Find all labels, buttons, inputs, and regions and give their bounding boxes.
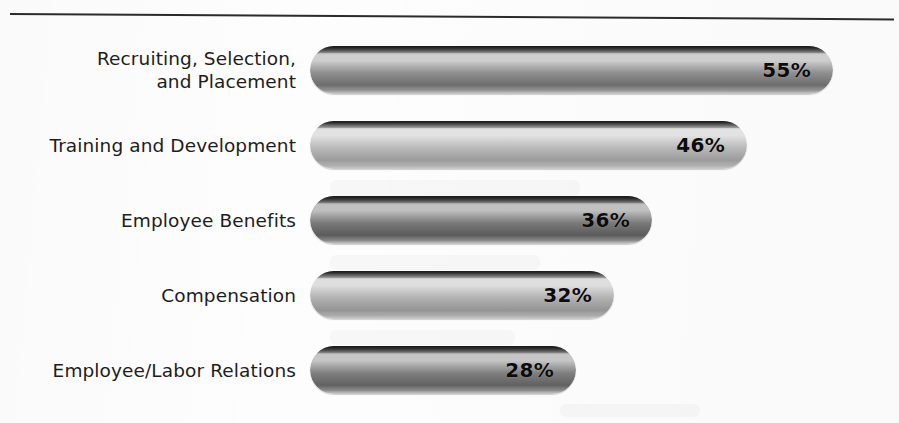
category-label: Employee/Labor Relations: [0, 359, 310, 382]
bar: 36%: [310, 196, 652, 244]
bar-value-label: 36%: [581, 196, 630, 244]
bar-row: Training and Development46%: [0, 117, 899, 173]
category-label: Compensation: [0, 284, 310, 307]
bar-track: 32%: [310, 267, 899, 323]
plot-area: Recruiting, Selection, and Placement55%T…: [0, 28, 899, 423]
bar-chart: Recruiting, Selection, and Placement55%T…: [0, 0, 899, 423]
bar-row: Employee Benefits36%: [0, 192, 899, 248]
bar-bottom-shade: [310, 85, 833, 94]
category-label: Recruiting, Selection, and Placement: [0, 47, 310, 93]
bar-row: Compensation32%: [0, 267, 899, 323]
bar: 32%: [310, 271, 614, 319]
bar-value-label: 46%: [676, 121, 725, 169]
bar-row: Employee/Labor Relations28%: [0, 342, 899, 398]
bar-value-label: 32%: [543, 271, 592, 319]
bar-top-highlight: [310, 46, 833, 53]
bar-row: Recruiting, Selection, and Placement55%: [0, 42, 899, 98]
bar-track: 36%: [310, 192, 899, 248]
bar-track: 28%: [310, 342, 899, 398]
category-label: Training and Development: [0, 134, 310, 157]
bar: 55%: [310, 46, 833, 94]
bar-track: 46%: [310, 117, 899, 173]
bar-value-label: 55%: [762, 46, 811, 94]
category-label: Employee Benefits: [0, 209, 310, 232]
bar-track: 55%: [310, 42, 899, 98]
top-divider-rule: [10, 13, 894, 20]
bar: 46%: [310, 121, 747, 169]
bar: 28%: [310, 346, 576, 394]
bar-value-label: 28%: [505, 346, 554, 394]
